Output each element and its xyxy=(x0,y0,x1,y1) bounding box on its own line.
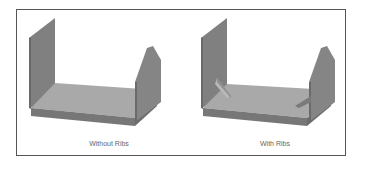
caption-without-ribs: Without Ribs xyxy=(49,140,169,147)
figure-frame: Without Ribs With Ribs xyxy=(16,9,346,156)
bracket-with-ribs-illustration xyxy=(187,10,347,157)
caption-with-ribs: With Ribs xyxy=(215,140,335,147)
bracket-without-ribs-illustration xyxy=(17,10,187,157)
